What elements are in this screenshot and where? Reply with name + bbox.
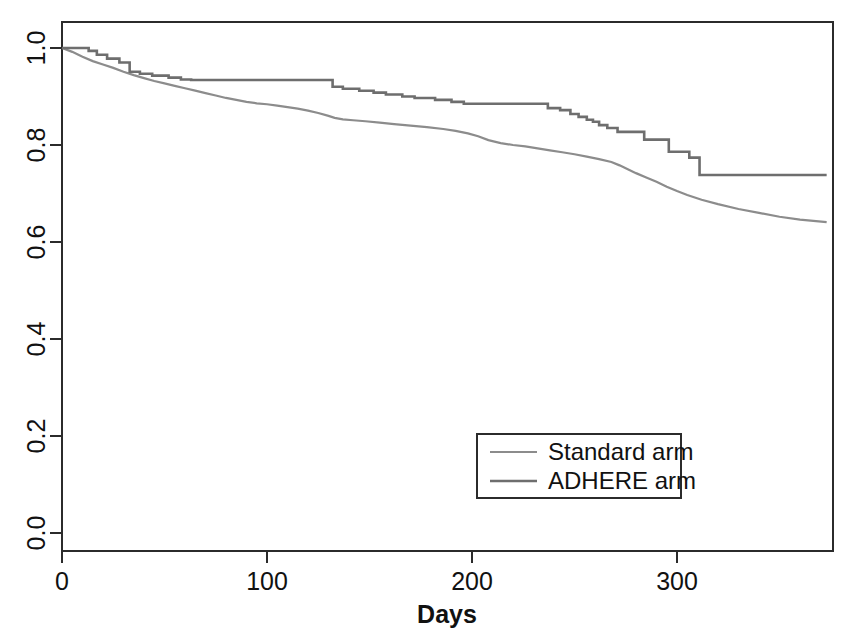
legend-label-adhere-arm: ADHERE arm	[548, 467, 696, 494]
survival-curve-figure: 0.0 0.2 0.4 0.6 0.8 1.0 0 100 200 300 Da…	[0, 0, 852, 636]
y-axis-tick-labels: 0.0 0.2 0.4 0.6 0.8 1.0	[22, 31, 50, 551]
series-line-adhere-arm	[62, 48, 827, 175]
y-tick-label-0: 0.0	[22, 516, 50, 551]
x-axis-tick-labels: 0 100 200 300	[55, 567, 698, 595]
x-tick-label-0: 0	[55, 567, 69, 595]
y-tick-label-3: 0.6	[22, 225, 50, 260]
y-tick-label-4: 0.8	[22, 128, 50, 163]
series-line-standard-arm	[62, 48, 827, 222]
plot-frame	[62, 22, 833, 551]
series-group	[62, 48, 827, 222]
y-tick-label-1: 0.2	[22, 419, 50, 454]
x-axis-ticks	[62, 551, 677, 563]
y-axis-ticks	[50, 48, 62, 533]
legend-label-standard-arm: Standard arm	[548, 438, 693, 465]
x-tick-label-300: 300	[656, 567, 698, 595]
kaplan-meier-plot: 0.0 0.2 0.4 0.6 0.8 1.0 0 100 200 300 Da…	[0, 0, 852, 636]
x-tick-label-200: 200	[451, 567, 493, 595]
legend: Standard arm ADHERE arm	[477, 434, 696, 498]
x-tick-label-100: 100	[246, 567, 288, 595]
y-tick-label-5: 1.0	[22, 31, 50, 66]
x-axis-title: Days	[417, 600, 477, 628]
y-tick-label-2: 0.4	[22, 322, 50, 357]
